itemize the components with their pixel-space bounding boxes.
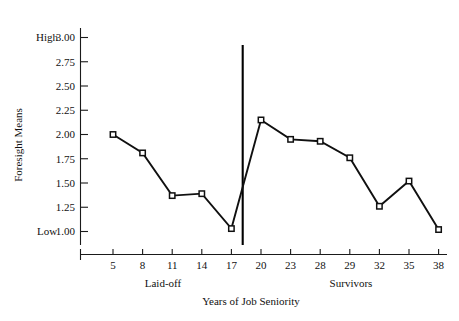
y-tick-label: 2.75	[56, 56, 76, 68]
y-tick-label: 3.00	[56, 31, 76, 43]
x-tick-label: 38	[433, 259, 445, 271]
x-tick-label: 20	[256, 259, 268, 271]
data-point-marker	[377, 204, 382, 209]
data-point-marker	[406, 178, 411, 183]
x-tick-marks	[113, 249, 439, 255]
data-point-marker	[229, 226, 234, 231]
y-axis-group: 3.002.752.502.252.001.751.501.251.00 Hig…	[12, 28, 88, 245]
x-tick-label: 29	[344, 259, 356, 271]
y-tick-label: 1.75	[56, 153, 76, 165]
x-tick-label: 23	[285, 259, 297, 271]
chart-container: 3.002.752.502.252.001.751.501.251.00 Hig…	[0, 0, 459, 321]
data-point-marker	[436, 227, 441, 232]
data-point-marker	[170, 193, 175, 198]
x-tick-label: 5	[110, 259, 116, 271]
y-axis-title: Foresight Means	[12, 108, 24, 182]
x-tick-labels: 5811141720232829323538	[110, 259, 444, 271]
x-tick-label: 32	[374, 259, 385, 271]
y-tick-label: 2.00	[56, 128, 76, 140]
y-tick-label: 1.25	[56, 201, 76, 213]
y-tick-labels: 3.002.752.502.252.001.751.501.251.00	[56, 31, 76, 237]
data-point-markers	[110, 117, 441, 232]
group-label-laid-off: Laid-off	[145, 277, 182, 289]
x-tick-label: 8	[140, 259, 146, 271]
y-axis-low-anchor: Low	[37, 225, 57, 237]
y-axis-high-anchor: High	[36, 31, 59, 43]
data-series-line	[113, 120, 439, 230]
x-tick-label: 11	[167, 259, 178, 271]
group-label-survivors: Survivors	[330, 277, 373, 289]
data-point-marker	[347, 155, 352, 160]
data-point-marker	[258, 117, 263, 122]
y-tick-label: 1.50	[56, 177, 76, 189]
x-tick-label: 35	[404, 259, 416, 271]
y-tick-label: 2.25	[56, 104, 76, 116]
x-tick-label: 14	[196, 259, 208, 271]
x-axis-title: Years of Job Seniority	[202, 295, 300, 307]
y-tick-label: 1.00	[56, 225, 76, 237]
data-point-marker	[110, 132, 115, 137]
y-tick-marks	[81, 38, 89, 232]
group-labels: Laid-off Survivors	[145, 277, 373, 289]
y-tick-label: 2.50	[56, 80, 76, 92]
x-tick-label: 17	[226, 259, 238, 271]
x-tick-label: 28	[315, 259, 327, 271]
data-point-marker	[288, 137, 293, 142]
x-axis-group: 5811141720232829323538 Years of Job Seni…	[81, 249, 448, 307]
data-point-marker	[318, 139, 323, 144]
line-chart: 3.002.752.502.252.001.751.501.251.00 Hig…	[0, 0, 459, 321]
data-point-marker	[199, 191, 204, 196]
data-point-marker	[140, 150, 145, 155]
